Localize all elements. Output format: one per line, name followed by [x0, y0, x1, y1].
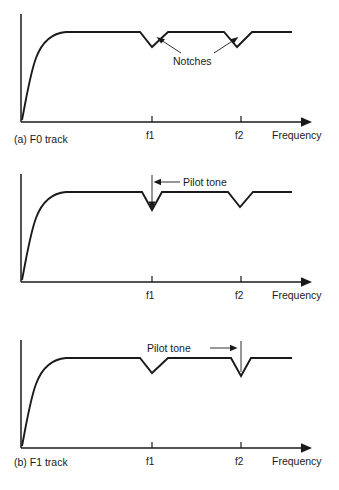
response-curve-f2: [22, 358, 292, 446]
tick-label-f1: f1: [146, 456, 155, 467]
annotation-pilot-tone-label: Pilot tone: [183, 176, 227, 188]
frequency-response-figure: Notches f1 f2 Frequency (a) F0 track Pil…: [0, 0, 339, 490]
pilot-tone-leader-arrowhead: [230, 345, 238, 351]
x-axis-label: Frequency: [272, 455, 322, 467]
x-axis-label: Frequency: [272, 129, 322, 141]
notches-leader-left: [161, 40, 181, 53]
tick-label-f2: f2: [235, 290, 244, 301]
tick-label-f2: f2: [235, 130, 244, 141]
tick-label-f1: f1: [146, 130, 155, 141]
x-axis-arrowhead: [301, 277, 312, 286]
response-curve-f1: [22, 192, 292, 280]
panel-f1-chart: Pilot tone f1 f2 Frequency: [0, 160, 339, 323]
notches-leader-right: [214, 40, 234, 53]
x-axis-label: Frequency: [272, 289, 322, 301]
panel-f0-caption: (a) F0 track: [14, 133, 68, 145]
notches-arrowhead-right: [230, 37, 239, 43]
panel-f2-chart: Pilot tone f1 f2 Frequency: [0, 322, 339, 490]
panel-f2-track: Pilot tone f1 f2 Frequency (c) F2 track: [0, 322, 339, 485]
panel-f0-track: Notches f1 f2 Frequency (a) F0 track: [0, 0, 339, 163]
x-axis-arrowhead: [301, 443, 312, 452]
annotation-notches-label: Notches: [173, 55, 212, 67]
panel-f1-track: Pilot tone f1 f2 Frequency (b) F1 track: [0, 160, 339, 323]
response-curve-f0: [22, 32, 292, 120]
tick-label-f2: f2: [235, 456, 244, 467]
pilot-tone-leader-arrowhead: [154, 179, 162, 185]
annotation-pilot-tone-label: Pilot tone: [147, 342, 191, 354]
x-axis-arrowhead: [301, 117, 312, 126]
tick-label-f1: f1: [146, 290, 155, 301]
